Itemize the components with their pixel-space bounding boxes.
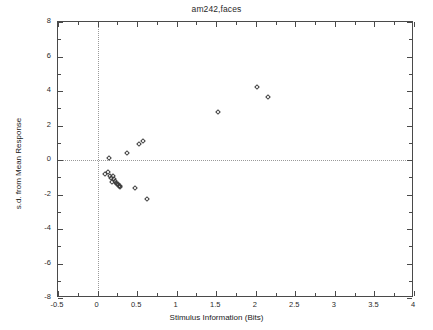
x-tick-minor — [157, 293, 158, 296]
x-tick-minor — [236, 293, 237, 296]
data-point — [132, 185, 138, 191]
x-tick-major — [98, 291, 99, 296]
data-point — [215, 109, 221, 115]
x-tick-minor — [276, 293, 277, 296]
y-tick-major — [58, 195, 63, 196]
y-tick-major-right — [407, 195, 412, 196]
x-tick-minor-top — [276, 22, 277, 25]
y-tick-minor — [58, 246, 61, 247]
y-tick-major — [58, 22, 63, 23]
x-tick-minor-top — [78, 22, 79, 25]
x-tick-major-top — [98, 22, 99, 27]
zero-reference-line-horizontal — [58, 160, 412, 161]
y-axis-title: s.d. from Mean Response — [14, 84, 23, 244]
y-tick-major-right — [407, 126, 412, 127]
x-tick-major-top — [335, 22, 336, 27]
y-tick-major-right — [407, 22, 412, 23]
data-point — [265, 94, 271, 100]
x-tick-minor-top — [196, 22, 197, 25]
y-tick-major — [58, 160, 63, 161]
x-tick-label: -0.5 — [51, 300, 64, 309]
x-tick-major-top — [414, 22, 415, 27]
x-tick-minor-top — [157, 22, 158, 25]
y-tick-minor-right — [409, 281, 412, 282]
x-tick-major-top — [216, 22, 217, 27]
x-tick-label: 1.5 — [210, 300, 220, 309]
y-tick-minor-right — [409, 108, 412, 109]
data-point — [124, 150, 130, 156]
x-tick-major — [58, 291, 59, 296]
x-tick-label: 1 — [174, 300, 178, 309]
x-tick-major-top — [374, 22, 375, 27]
y-tick-minor — [58, 108, 61, 109]
y-tick-major — [58, 229, 63, 230]
y-tick-major-right — [407, 298, 412, 299]
y-tick-major-right — [407, 57, 412, 58]
x-tick-label: 0.5 — [131, 300, 141, 309]
y-tick-minor — [58, 143, 61, 144]
x-tick-minor-top — [315, 22, 316, 25]
x-tick-minor-top — [355, 22, 356, 25]
x-tick-major — [137, 291, 138, 296]
y-tick-major-right — [407, 229, 412, 230]
x-tick-minor — [196, 293, 197, 296]
y-tick-minor — [58, 177, 61, 178]
y-tick-major — [58, 264, 63, 265]
plot-frame — [57, 21, 413, 297]
y-tick-minor-right — [409, 39, 412, 40]
chart-container: am242,faces -0.500.511.522.533.54 -8-6-4… — [0, 0, 433, 330]
x-tick-major-top — [137, 22, 138, 27]
y-tick-minor — [58, 39, 61, 40]
y-tick-minor-right — [409, 74, 412, 75]
y-tick-minor — [58, 74, 61, 75]
x-tick-major-top — [177, 22, 178, 27]
data-point — [145, 196, 151, 202]
y-tick-minor — [58, 281, 61, 282]
x-tick-minor — [355, 293, 356, 296]
y-tick-minor-right — [409, 212, 412, 213]
y-tick-major-right — [407, 160, 412, 161]
x-tick-major — [295, 291, 296, 296]
x-tick-major — [216, 291, 217, 296]
x-tick-label: 3.5 — [368, 300, 378, 309]
x-tick-major — [374, 291, 375, 296]
x-axis-title: Stimulus Information (Bits) — [0, 313, 433, 322]
data-point — [118, 183, 124, 189]
x-tick-label: 2.5 — [289, 300, 299, 309]
y-tick-major — [58, 57, 63, 58]
x-tick-minor — [78, 293, 79, 296]
y-tick-major-right — [407, 264, 412, 265]
x-tick-minor-top — [117, 22, 118, 25]
x-tick-major-top — [256, 22, 257, 27]
y-tick-minor-right — [409, 143, 412, 144]
x-tick-label: 4 — [411, 300, 415, 309]
x-tick-label: 3 — [332, 300, 336, 309]
y-tick-major — [58, 91, 63, 92]
plot-area — [58, 22, 412, 296]
data-point — [255, 84, 261, 90]
y-tick-major-right — [407, 91, 412, 92]
x-tick-minor-top — [394, 22, 395, 25]
x-tick-minor-top — [236, 22, 237, 25]
x-tick-major — [414, 291, 415, 296]
chart-title: am242,faces — [0, 4, 433, 14]
y-tick-major — [58, 298, 63, 299]
y-tick-minor-right — [409, 246, 412, 247]
y-tick-minor-right — [409, 177, 412, 178]
x-tick-minor — [117, 293, 118, 296]
x-tick-minor — [315, 293, 316, 296]
y-tick-minor — [58, 212, 61, 213]
x-tick-major — [335, 291, 336, 296]
y-tick-major — [58, 126, 63, 127]
x-tick-minor — [394, 293, 395, 296]
x-tick-major-top — [295, 22, 296, 27]
x-tick-label: 0 — [94, 300, 98, 309]
zero-reference-line-vertical — [98, 22, 99, 296]
x-tick-major — [256, 291, 257, 296]
x-tick-major — [177, 291, 178, 296]
x-tick-label: 2 — [253, 300, 257, 309]
